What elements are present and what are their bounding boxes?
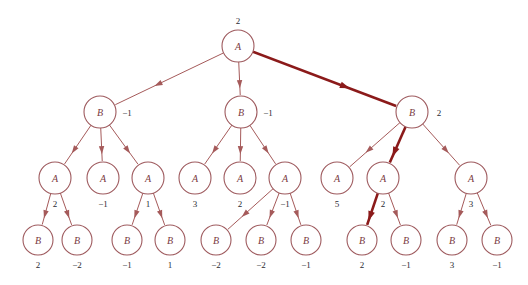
node-value-label: 1 [168, 260, 173, 270]
tree-node-l6[interactable]: B−2 [246, 225, 276, 270]
node-player-label: A [467, 173, 475, 184]
tree-edge-arrowhead [64, 210, 69, 218]
tree-edge [290, 193, 301, 225]
node-player-label: B [97, 107, 103, 118]
tree-edge [350, 123, 400, 167]
tree-edge [423, 124, 460, 165]
tree-node-a1[interactable]: A2 [39, 162, 71, 209]
tree-nodes-layer: A2B−1B−1B2A2A−1A1A3A2A−1A5A2A3B2B−2B−1B1… [23, 16, 512, 270]
tree-edge-arrowhead [238, 146, 243, 154]
node-value-label: −1 [122, 260, 132, 270]
tree-edge [389, 193, 401, 225]
node-player-label: A [234, 41, 242, 52]
tree-edge [390, 127, 406, 163]
node-value-label: 2 [36, 260, 41, 270]
node-value-label: 2 [437, 108, 442, 118]
node-player-label: B [74, 235, 80, 246]
node-player-label: B [494, 235, 500, 246]
tree-edge [101, 128, 103, 161]
node-value-label: −1 [301, 260, 311, 270]
node-player-label: B [213, 235, 219, 246]
node-player-label: B [35, 235, 41, 246]
tree-edge [205, 125, 232, 164]
tree-edge-arrowhead [134, 210, 139, 218]
tree-node-l10[interactable]: B3 [437, 225, 467, 270]
tree-edge [109, 125, 138, 164]
node-player-label: B [449, 235, 455, 246]
tree-edge [267, 193, 279, 225]
node-player-label: B [124, 235, 130, 246]
tree-edge-arrowhead [393, 210, 398, 218]
tree-edge [228, 189, 273, 230]
node-player-label: A [281, 173, 289, 184]
tree-edge-arrowhead [368, 211, 374, 221]
tree-node-a5[interactable]: A2 [224, 162, 256, 209]
tree-edge-arrowhead [262, 145, 269, 153]
tree-edge-arrowhead [237, 80, 242, 88]
node-value-label: −1 [263, 108, 273, 118]
node-player-label: B [238, 107, 244, 118]
tree-node-a6[interactable]: A−1 [269, 162, 301, 209]
tree-node-a3[interactable]: A1 [132, 162, 164, 209]
tree-edge-arrowhead [154, 80, 162, 86]
tree-node-b3[interactable]: B2 [396, 96, 441, 128]
node-value-label: −2 [256, 260, 266, 270]
node-value-label: 2 [53, 199, 58, 209]
tree-edge [65, 125, 91, 164]
tree-node-l5[interactable]: B−2 [201, 225, 231, 270]
tree-node-r[interactable]: A2 [222, 16, 254, 62]
tree-node-l2[interactable]: B−2 [62, 225, 92, 270]
node-player-label: B [403, 235, 409, 246]
node-value-label: −1 [280, 199, 290, 209]
node-value-label: 2 [381, 199, 386, 209]
tree-edge-arrowhead [392, 146, 399, 156]
tree-node-l8[interactable]: B2 [347, 225, 377, 270]
node-value-label: 2 [238, 199, 243, 209]
node-player-label: B [303, 235, 309, 246]
tree-edge-arrowhead [458, 210, 463, 218]
tree-node-a7[interactable]: A5 [321, 162, 353, 209]
node-player-label: A [379, 173, 387, 184]
node-value-label: 3 [450, 260, 455, 270]
tree-node-l3[interactable]: B−1 [112, 225, 142, 270]
tree-node-l7[interactable]: B−1 [291, 225, 321, 270]
node-player-label: A [333, 173, 341, 184]
node-value-label: −1 [401, 260, 411, 270]
tree-edge-arrowhead [72, 145, 79, 153]
tree-node-b1[interactable]: B−1 [84, 96, 132, 128]
node-player-label: B [359, 235, 365, 246]
tree-node-l4[interactable]: B1 [155, 225, 185, 270]
node-value-label: −1 [492, 260, 502, 270]
node-value-label: 2 [360, 260, 365, 270]
tree-edge [253, 52, 396, 106]
node-value-label: 5 [335, 199, 340, 209]
node-player-label: A [191, 173, 199, 184]
node-value-label: 2 [236, 16, 241, 26]
tree-edge [477, 193, 491, 225]
tree-edge-arrowhead [99, 146, 104, 154]
tree-node-l1[interactable]: B2 [23, 225, 53, 270]
tree-edge [60, 193, 71, 225]
tree-node-a2[interactable]: A−1 [87, 162, 119, 209]
game-tree-figure: A2B−1B−1B2A2A−1A1A3A2A−1A5A2A3B2B−2B−1B1… [0, 0, 528, 285]
node-value-label: −2 [72, 260, 82, 270]
tree-edge [153, 193, 164, 225]
tree-edge [240, 128, 241, 161]
node-value-label: −1 [122, 108, 132, 118]
node-value-label: 1 [146, 199, 151, 209]
tree-edge [132, 193, 143, 225]
tree-node-a9[interactable]: A3 [455, 162, 487, 209]
tree-node-a4[interactable]: A3 [179, 162, 211, 209]
tree-node-b2[interactable]: B−1 [225, 96, 273, 128]
tree-node-l11[interactable]: B−1 [482, 225, 512, 270]
tree-edge-arrowhead [123, 145, 130, 153]
node-player-label: A [51, 173, 59, 184]
tree-edges-layer [42, 52, 491, 230]
node-player-label: B [409, 107, 415, 118]
tree-edge [457, 193, 467, 224]
tree-node-a8[interactable]: A2 [367, 162, 399, 209]
tree-node-l9[interactable]: B−1 [391, 225, 421, 270]
node-player-label: A [236, 173, 244, 184]
tree-edge-arrowhead [269, 210, 274, 218]
game-tree-canvas: A2B−1B−1B2A2A−1A1A3A2A−1A5A2A3B2B−2B−1B1… [0, 0, 528, 285]
